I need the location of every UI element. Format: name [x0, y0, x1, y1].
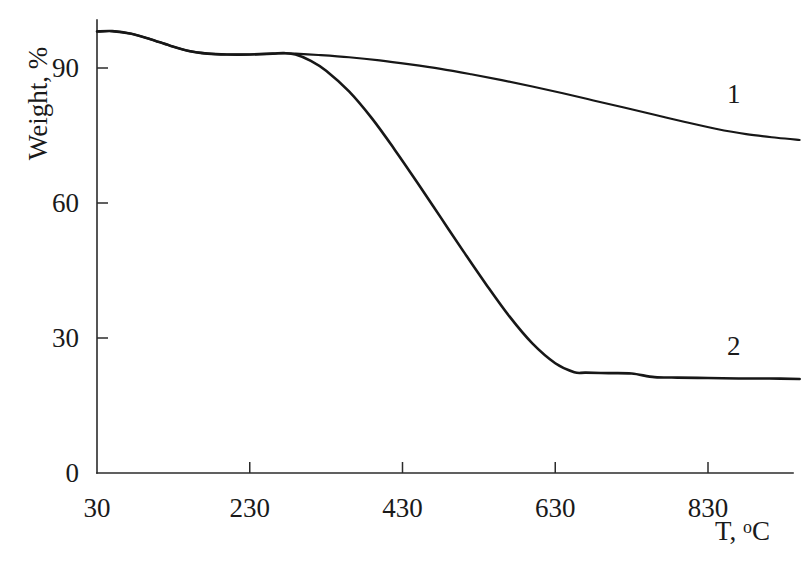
y-axis-title: Weight, %: [23, 14, 54, 194]
y-tick-label: 60: [0, 190, 79, 217]
x-axis-ticks: [250, 462, 708, 473]
x-axis-title-prefix: T,: [715, 516, 743, 546]
plot-area: [0, 0, 810, 578]
y-tick-label: 0: [0, 460, 79, 487]
x-axis-title: T, oC: [715, 516, 770, 547]
curve-label: 2: [727, 333, 741, 360]
x-tick-label: 430: [382, 495, 423, 522]
data-curve-1: [97, 31, 800, 140]
tga-chart-figure: 0306090 30230430630830 Weight, % T, oC 1…: [0, 0, 810, 578]
x-tick-label: 230: [230, 495, 271, 522]
y-axis-ticks: [97, 68, 108, 338]
degree-symbol: o: [743, 517, 752, 537]
x-axis-title-suffix: C: [752, 516, 770, 546]
x-tick-label: 30: [84, 495, 111, 522]
data-curve-2: [97, 31, 800, 379]
curve-label: 1: [727, 81, 741, 108]
x-tick-label: 630: [535, 495, 576, 522]
y-tick-label: 30: [0, 325, 79, 352]
